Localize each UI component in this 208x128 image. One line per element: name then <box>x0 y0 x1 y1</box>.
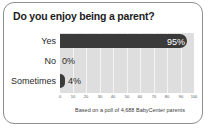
x-tick: 0 <box>59 94 61 99</box>
chart-card: Do you enjoy being a parent? Yes No Some… <box>3 2 203 124</box>
x-tick: 10 <box>71 94 75 99</box>
x-tick: 100 <box>191 94 198 99</box>
value-label-sometimes: 4% <box>68 76 81 86</box>
value-label-yes: 95% <box>167 37 185 47</box>
x-tick: 40 <box>111 94 115 99</box>
category-label-no: No <box>4 56 56 66</box>
x-tick: 50 <box>125 94 129 99</box>
category-label-yes: Yes <box>4 36 56 46</box>
x-tick: 20 <box>84 94 88 99</box>
value-label-no: 0% <box>62 56 75 66</box>
x-axis: 0 10 20 30 40 50 60 70 80 90 100 <box>60 94 194 102</box>
x-tick: 60 <box>138 94 142 99</box>
chart-caption: Based on a poll of 4,688 BabyCenter pare… <box>60 107 200 113</box>
x-tick: 70 <box>152 94 156 99</box>
category-label-sometimes: Sometimes <box>4 76 56 86</box>
x-tick: 30 <box>98 94 102 99</box>
chart-title: Do you enjoy being a parent? <box>13 10 154 22</box>
x-tick: 80 <box>165 94 169 99</box>
x-tick: 90 <box>179 94 183 99</box>
